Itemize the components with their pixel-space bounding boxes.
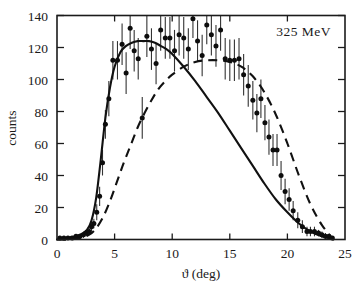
data-point [195, 39, 200, 44]
y-tick-label: 80 [35, 105, 49, 120]
data-point [132, 48, 137, 53]
data-point [103, 122, 108, 127]
data-point [250, 98, 255, 103]
data-point [94, 210, 99, 215]
data-point [172, 48, 177, 53]
data-point [295, 218, 300, 223]
x-tick-label: 20 [281, 246, 295, 261]
y-tick-label: 120 [28, 41, 49, 56]
data-point [149, 47, 154, 52]
data-point [154, 61, 159, 66]
data-point [266, 135, 271, 140]
data-point [136, 56, 141, 61]
data-point [227, 58, 232, 63]
data-point [232, 58, 237, 63]
data-point [237, 56, 242, 61]
data-point [124, 71, 129, 76]
data-point [258, 96, 263, 101]
data-point [223, 56, 228, 61]
y-tick-label: 140 [28, 9, 49, 24]
plot-background [0, 0, 364, 286]
y-tick-label: 100 [28, 73, 49, 88]
energy-annotation: 325 MeV [276, 24, 331, 39]
x-axis-title: ϑ (deg) [182, 266, 221, 281]
data-point [275, 147, 280, 152]
data-point [213, 43, 218, 48]
data-point [200, 53, 205, 58]
data-point [106, 96, 111, 101]
data-point [115, 58, 120, 63]
y-tick-label: 40 [35, 169, 49, 184]
figure-container: 0510152025 020406080100120140 ϑ (deg) co… [0, 0, 364, 286]
y-tick-label: 0 [41, 233, 48, 248]
data-point [287, 197, 292, 202]
data-point [218, 27, 223, 32]
data-point [100, 160, 105, 165]
data-point [262, 120, 267, 125]
data-point [186, 47, 191, 52]
counts-vs-angle-plot: 0510152025 020406080100120140 ϑ (deg) co… [0, 0, 364, 286]
data-point [120, 42, 125, 47]
data-point [190, 16, 195, 21]
data-point [279, 173, 284, 178]
data-point [163, 35, 168, 40]
data-point [209, 32, 214, 37]
y-tick-label: 60 [35, 137, 49, 152]
x-tick-label: 0 [54, 246, 61, 261]
data-point [158, 27, 163, 32]
x-tick-label: 25 [338, 246, 352, 261]
data-point [87, 229, 92, 234]
y-axis-title: counts [4, 110, 19, 145]
x-tick-label: 15 [223, 246, 237, 261]
data-point [283, 189, 288, 194]
data-point [128, 26, 133, 31]
data-point [241, 72, 246, 77]
data-point [291, 208, 296, 213]
data-point [246, 83, 251, 88]
data-point [144, 34, 149, 39]
x-tick-label: 5 [111, 246, 118, 261]
y-tick-label: 20 [35, 201, 49, 216]
data-point [300, 224, 305, 229]
data-point [140, 115, 145, 120]
x-tick-label: 10 [165, 246, 179, 261]
data-point [181, 35, 186, 40]
data-point [204, 23, 209, 28]
data-point [167, 35, 172, 40]
data-point [254, 111, 259, 116]
data-point [177, 32, 182, 37]
data-point [97, 194, 102, 199]
data-point [91, 221, 96, 226]
data-point [110, 58, 115, 63]
